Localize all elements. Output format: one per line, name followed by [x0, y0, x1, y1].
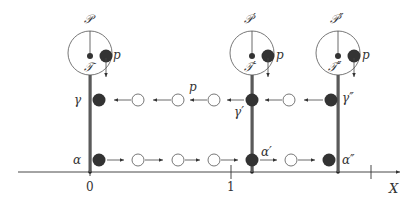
diagram-canvas: 𝒫 𝒯 p γ α 𝒫′ 𝒯′ p γ′ α′ 𝒫″ 𝒯″ p γ″ α″ p …: [0, 0, 416, 203]
process-label-2: 𝒫′: [244, 13, 256, 25]
process-label-3: 𝒫″: [330, 13, 343, 25]
x-axis-label: X: [389, 182, 398, 195]
point-label-1: p: [113, 49, 121, 61]
tree-label-2: 𝒯′: [244, 61, 256, 73]
gamma-prime-dot: [246, 94, 259, 107]
alpha-double-prime-dot: [323, 154, 336, 167]
point-label-3: p: [362, 49, 370, 61]
gamma-label-2: γ′: [234, 106, 244, 118]
point-label-2: p: [276, 49, 284, 61]
bar-alpha-double-prime: [337, 75, 340, 172]
gamma-label-3: γ″: [342, 92, 354, 104]
alpha-label-1: α: [73, 154, 81, 166]
tree-label-3: 𝒯″: [328, 61, 341, 73]
tree-label-1: 𝒯: [84, 61, 93, 73]
alpha-row: [93, 154, 336, 167]
gamma-double-prime-dot: [325, 94, 338, 107]
tick-label-1: 1: [227, 181, 235, 193]
alpha-label-3: α″: [342, 154, 355, 166]
gamma-dot: [93, 94, 106, 107]
alpha-label-2: α′: [261, 146, 272, 158]
tick-label-0: 0: [86, 181, 94, 193]
x-axis: [18, 165, 400, 179]
alpha-prime-dot: [246, 154, 259, 167]
gamma-label-1: γ: [74, 94, 81, 106]
gamma-row-p-label: p: [189, 81, 197, 93]
alpha-dot: [93, 154, 106, 167]
bar-0: [89, 75, 92, 172]
process-label-1: 𝒫: [84, 13, 93, 25]
gamma-row: [93, 94, 338, 107]
